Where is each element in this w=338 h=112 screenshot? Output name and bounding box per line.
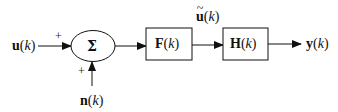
block-f-arg: (k) [164,36,180,51]
block-f-symbol: F [155,36,164,51]
block-h-label: H(k) [230,37,256,51]
intermediate-u-arg: (k) [204,9,220,24]
block-h-symbol: H [230,36,241,51]
input-u-sign: + [55,30,62,42]
input-u-label: u(k) [12,39,35,53]
summer-sigma: Σ [87,39,97,53]
input-n-sign: + [78,65,85,77]
input-n-label: n(k) [80,94,103,108]
block-h-arg: (k) [241,36,257,51]
output-y-label: y(k) [306,37,329,51]
tilde-accent: ~ [196,1,204,15]
input-n-symbol: n [80,93,88,108]
block-f-label: F(k) [155,37,179,51]
output-y-arg: (k) [313,36,329,51]
intermediate-u-tilde-label: ~u(k) [196,10,219,24]
input-n-arg: (k) [88,93,104,108]
input-u-symbol: u [12,38,20,53]
block-diagram-canvas [0,0,338,112]
output-y-symbol: y [306,36,313,51]
intermediate-u-symbol-wrap: ~u [196,10,204,24]
input-u-arg: (k) [20,38,36,53]
